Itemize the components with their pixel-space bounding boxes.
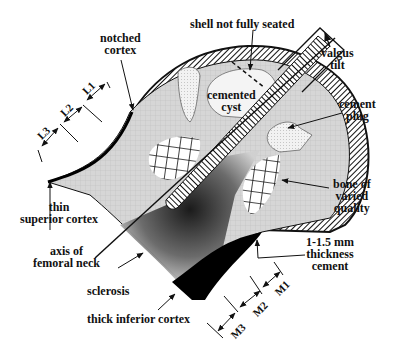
label-axis-femoral-neck: axis of femoral neck (33, 245, 100, 269)
label-thin-superior-cortex: thin superior cortex (20, 201, 98, 225)
label-cemented-cyst: cemented cyst (207, 89, 256, 113)
label-notched-cortex: notched cortex (100, 32, 141, 56)
label-shell-not-seated: shell not fully seated (190, 18, 294, 30)
label-thick-inferior-cortex: thick inferior cortex (87, 313, 190, 325)
label-valgus-tilt: valgus tilt (321, 47, 354, 71)
label-cement-plug: cement plug (339, 98, 376, 122)
label-bone-varied-quality: bone of varied quality (333, 178, 371, 214)
label-sclerosis: sclerosis (87, 285, 129, 297)
superior-dimensions (38, 82, 110, 162)
label-cement-thickness: 1-1.5 mm thickness cement (306, 236, 354, 272)
